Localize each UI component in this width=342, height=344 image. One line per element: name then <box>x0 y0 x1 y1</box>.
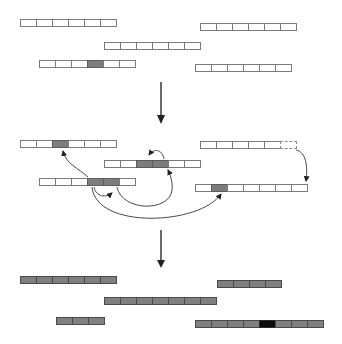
curved-arrow-icon <box>296 150 307 181</box>
down-arrow-icon <box>157 82 165 124</box>
curved-arrow-icon <box>94 187 112 196</box>
curved-arrow-icon <box>149 150 164 159</box>
transfer-arrows <box>63 150 307 218</box>
arrows-layer <box>0 0 342 344</box>
curved-arrow-icon <box>63 151 88 177</box>
curved-arrow-icon <box>92 187 221 218</box>
down-arrow-icon <box>157 230 165 268</box>
curved-arrow-icon <box>117 170 172 206</box>
